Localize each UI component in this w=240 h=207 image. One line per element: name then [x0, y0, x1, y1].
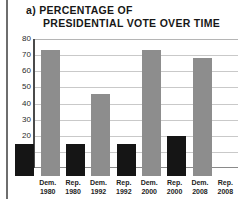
x-tick-rep-2000: Rep.2000 — [162, 178, 187, 196]
x-tick-dem-1980: Dem.1980 — [35, 178, 60, 196]
x-tick-party: Dem. — [187, 178, 212, 187]
bar-series — [12, 47, 215, 176]
x-tick-rep-2008: Rep.2008 — [213, 178, 238, 196]
bar-rep-1992 — [91, 94, 110, 176]
x-tick-year: 2008 — [187, 187, 212, 196]
bar-dem-1980 — [15, 144, 34, 176]
x-tick-year: 2000 — [137, 187, 162, 196]
x-tick-party: Rep. — [61, 178, 86, 187]
bar-dem-1992 — [66, 144, 85, 176]
x-tick-dem-2008: Dem.2008 — [187, 178, 212, 196]
chart-title: a) PERCENTAGE OF PRESIDENTIAL VOTE OVER … — [26, 4, 234, 30]
bar-dem-2008 — [167, 136, 186, 176]
x-tick-party: Dem. — [86, 178, 111, 187]
x-tick-party: Rep. — [111, 178, 136, 187]
x-axis-labels: Dem.1980Rep.1980Dem.1992Rep.1992Dem.2000… — [35, 178, 238, 202]
bar-dem-2000 — [117, 144, 136, 176]
x-tick-rep-1980: Rep.1980 — [61, 178, 86, 196]
chart-figure: a) PERCENTAGE OF PRESIDENTIAL VOTE OVER … — [0, 0, 240, 207]
chart-title-line-1: a) PERCENTAGE OF — [26, 4, 234, 17]
x-tick-year: 1980 — [61, 187, 86, 196]
page-margin-rule — [6, 0, 8, 199]
plot-area: 1020304050607080 — [12, 36, 238, 176]
x-tick-year: 1980 — [35, 187, 60, 196]
x-tick-rep-1992: Rep.1992 — [111, 178, 136, 196]
y-tick-label-80: 80 — [22, 35, 31, 43]
x-tick-year: 1992 — [111, 187, 136, 196]
x-tick-dem-1992: Dem.1992 — [86, 178, 111, 196]
bar-rep-1980 — [41, 50, 60, 176]
x-tick-year: 2008 — [213, 187, 238, 196]
x-tick-party: Rep. — [162, 178, 187, 187]
x-tick-party: Dem. — [137, 178, 162, 187]
x-tick-party: Rep. — [213, 178, 238, 187]
bar-rep-2008 — [193, 58, 212, 176]
bar-rep-2000 — [142, 50, 161, 176]
x-tick-dem-2000: Dem.2000 — [137, 178, 162, 196]
x-tick-party: Dem. — [35, 178, 60, 187]
chart-title-line-2: PRESIDENTIAL VOTE OVER TIME — [26, 17, 234, 30]
x-tick-year: 1992 — [86, 187, 111, 196]
gridline-80 — [35, 39, 238, 40]
x-tick-year: 2000 — [162, 187, 187, 196]
